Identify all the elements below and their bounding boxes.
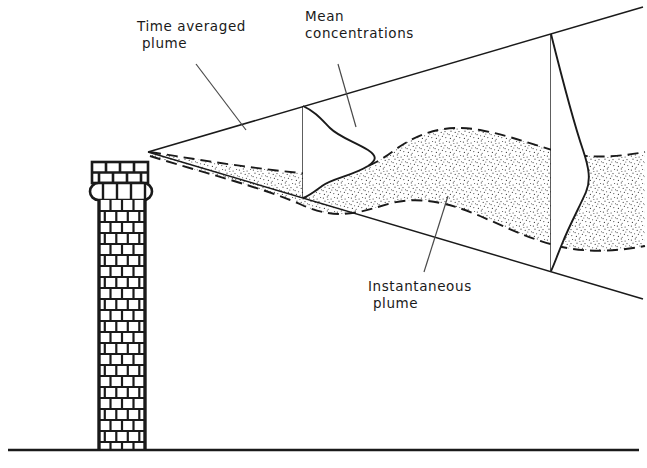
leader-time-averaged (196, 64, 246, 130)
diagram-svg (0, 0, 647, 468)
label-time-averaged-plume: Time averaged plume (137, 18, 246, 52)
brick-chimney-stack (90, 162, 152, 450)
diagram-canvas: Time averaged plume Mean concentrations … (0, 0, 647, 468)
label-mean-concentrations: Mean concentrations (305, 8, 414, 42)
label-instantaneous-plume: Instantaneous plume (368, 278, 472, 312)
leader-instantaneous (424, 196, 448, 272)
